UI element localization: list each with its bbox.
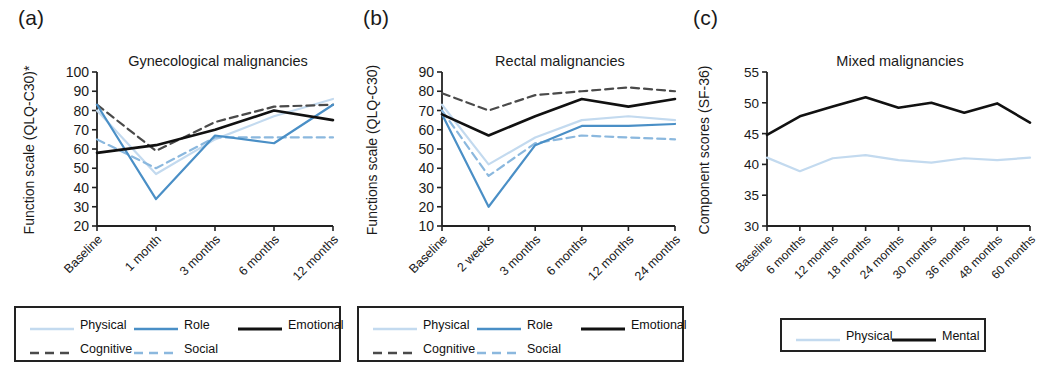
legend-label: Emotional <box>288 318 344 332</box>
y-tick-label: 30 <box>418 180 434 196</box>
legend-label: Cognitive <box>423 342 475 356</box>
legend-swatch-cognitive <box>373 344 417 354</box>
y-tick-label: 30 <box>744 219 759 234</box>
legend-item-role: Role <box>477 318 581 332</box>
x-tick-label: 3 months <box>497 232 543 278</box>
series-line-physical <box>767 155 1030 171</box>
legend-item-physical: Physical <box>30 318 134 332</box>
panel-a-chart: 2030405060708090100Baseline1 month3 mont… <box>0 0 345 310</box>
legend-label: Physical <box>846 329 893 343</box>
legend-swatch-physical <box>796 331 840 341</box>
y-tick-label: 70 <box>418 103 434 119</box>
y-tick-label: 35 <box>744 188 759 203</box>
legend-label: Social <box>184 342 218 356</box>
x-tick-label: 6 months <box>236 232 282 278</box>
x-tick-label: 2 weeks <box>454 232 496 274</box>
legend-label: Social <box>527 342 561 356</box>
legend-label: Cognitive <box>80 342 132 356</box>
legend-row: Physical Mental <box>796 326 984 346</box>
series-line-mental <box>767 97 1030 135</box>
y-tick-label: 90 <box>73 83 89 99</box>
y-axis-title: Component scores (SF-36) <box>696 66 712 235</box>
panel-c-chart: 303540455055Baseline6 months12 months18 … <box>685 0 1042 310</box>
legend-row: Physical Role Emotional <box>373 315 682 335</box>
legend-item-emotional: Emotional <box>581 318 681 332</box>
legend-item-physical: Physical <box>373 318 477 332</box>
legend-label: Mental <box>942 329 980 343</box>
legend-swatch-physical <box>373 320 417 330</box>
x-tick-label: 24 months <box>632 232 683 283</box>
legend-item-social: Social <box>477 342 581 356</box>
x-tick-label: 12 months <box>290 232 341 283</box>
legend-item-social: Social <box>134 342 238 356</box>
legend-swatch-social <box>134 344 178 354</box>
legend-item-cognitive: Cognitive <box>373 342 477 356</box>
x-tick-label: 3 months <box>177 232 223 278</box>
y-tick-label: 50 <box>73 160 89 176</box>
y-axis-title: Functions scale (QLQ-C30) <box>364 65 380 235</box>
legend-label: Emotional <box>631 318 687 332</box>
legend-panel-c: Physical Mental <box>780 318 986 352</box>
x-tick-label: 6 months <box>544 232 590 278</box>
legend-item-cognitive: Cognitive <box>30 342 134 356</box>
series-line-social <box>97 137 333 168</box>
y-tick-label: 20 <box>73 218 89 234</box>
series-line-role <box>97 105 333 199</box>
x-tick-label: 1 month <box>122 232 164 274</box>
plot-title: Gynecological malignancies <box>128 53 308 69</box>
legend-row: Physical Role Emotional <box>30 315 339 335</box>
y-tick-label: 60 <box>73 141 89 157</box>
x-tick-label: Baseline <box>61 232 105 276</box>
plot-title: Mixed malignancies <box>836 53 963 69</box>
legend-swatch-social <box>477 344 521 354</box>
legend-label: Role <box>184 318 210 332</box>
x-tick-label: Baseline <box>406 232 450 276</box>
legend-swatch-mental <box>892 331 936 341</box>
y-tick-label: 40 <box>73 180 89 196</box>
panel-b-chart: 102030405060708090Baseline2 weeks3 month… <box>345 0 685 310</box>
legend-item-mental: Mental <box>892 329 984 343</box>
legend-label: Physical <box>80 318 127 332</box>
legend-item-physical: Physical <box>796 329 892 343</box>
legend-item-emotional: Emotional <box>238 318 338 332</box>
y-tick-label: 30 <box>73 199 89 215</box>
series-line-social <box>442 111 675 176</box>
y-tick-label: 80 <box>418 83 434 99</box>
y-tick-label: 40 <box>744 157 759 172</box>
legend-swatch-emotional <box>581 320 625 330</box>
legend-swatch-emotional <box>238 320 282 330</box>
legend-swatch-cognitive <box>30 344 74 354</box>
y-tick-label: 90 <box>418 64 434 80</box>
legend-panel-b: Physical Role Emotional Cognitive Social <box>357 306 684 362</box>
legend-label: Physical <box>423 318 470 332</box>
legend-swatch-role <box>477 320 521 330</box>
figure-root: (a) 2030405060708090100Baseline1 month3 … <box>0 0 1042 387</box>
legend-row: Cognitive Social <box>30 339 339 359</box>
legend-panel-a: Physical Role Emotional Cognitive Social <box>14 306 341 362</box>
legend-label: Role <box>527 318 553 332</box>
y-tick-label: 60 <box>418 122 434 138</box>
y-tick-label: 100 <box>66 64 90 80</box>
y-tick-label: 45 <box>744 127 759 142</box>
y-tick-label: 20 <box>418 199 434 215</box>
y-tick-label: 70 <box>73 122 89 138</box>
legend-row: Cognitive Social <box>373 339 682 359</box>
plot-title: Rectal malignancies <box>495 53 625 69</box>
legend-swatch-physical <box>30 320 74 330</box>
y-tick-label: 50 <box>418 141 434 157</box>
y-tick-label: 40 <box>418 160 434 176</box>
y-tick-label: 50 <box>744 96 759 111</box>
y-tick-label: 80 <box>73 103 89 119</box>
legend-swatch-role <box>134 320 178 330</box>
x-tick-label: 12 months <box>585 232 636 283</box>
y-tick-label: 10 <box>418 218 434 234</box>
legend-item-role: Role <box>134 318 238 332</box>
y-axis-title: Function scale (QLQ-C30)* <box>21 65 37 234</box>
y-tick-label: 55 <box>744 65 759 80</box>
